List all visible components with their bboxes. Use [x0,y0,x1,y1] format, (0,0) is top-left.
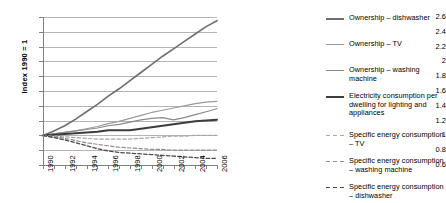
legend-swatch-icon [326,183,344,193]
legend-swatch-icon [326,66,344,76]
legend-item-label: Specific energy consumption – washing ma… [349,157,446,174]
y-axis-tick-label: 2.2 [410,43,446,51]
series-line-4 [43,135,217,139]
legend-item-label: Specific energy consumption – TV [349,131,446,148]
x-axis-tick-label: 1990 [46,155,55,172]
legend-item-label: Ownership – dishwasher [349,14,430,23]
x-axis-tick-mark [108,166,109,169]
x-axis-tick-mark [217,166,218,169]
legend-item-label: Ownership – TV [349,40,402,49]
y-axis-title: Index 1990 = 1 [20,19,29,115]
legend-item-label: Specific energy consumption – dishwasher [349,183,446,200]
legend-item[interactable]: Electricity consumption per dwelling for… [326,92,446,118]
x-axis-tick-mark [87,166,88,169]
chart-container: Index 1990 = 1 2.62.42.221.81.61.41.210.… [0,0,446,203]
x-axis-tick-label: 2000 [155,155,164,172]
x-axis-tick-mark [174,166,175,169]
x-axis-tick-label: 2004 [198,155,207,172]
x-axis-tick-mark [65,166,66,169]
x-axis-tick-label: 1998 [133,155,142,172]
legend-item[interactable]: Specific energy consumption – washing ma… [326,157,446,174]
series-lines [43,17,217,165]
legend-item-label: Ownership – washing machine [349,66,446,83]
legend-item[interactable]: Ownership – dishwasher [326,14,430,24]
x-axis-tick-label: 2002 [177,155,186,172]
legend-swatch-icon [326,157,344,167]
legend-swatch-icon [326,92,344,102]
legend-swatch-icon [326,40,344,50]
legend-swatch-icon [326,14,344,24]
legend-item-label: Electricity consumption per dwelling for… [349,92,446,118]
legend-item[interactable]: Ownership – TV [326,40,402,50]
x-axis-tick-mark [130,166,131,169]
y-axis-tick-label: 2.4 [410,28,446,36]
x-axis-tick-mark [195,166,196,169]
legend-item[interactable]: Ownership – washing machine [326,66,446,83]
x-axis-tick-mark [43,166,44,169]
legend-item[interactable]: Specific energy consumption – TV [326,131,446,148]
legend-swatch-icon [326,131,344,141]
y-axis-tick-label: 1.2 [410,117,446,125]
y-axis-line [43,17,44,166]
plot-area [43,17,217,165]
x-axis-tick-label: 2006 [220,155,229,172]
x-axis-tick-label: 1992 [68,155,77,172]
x-axis-tick-label: 1994 [90,155,99,172]
x-axis-tick-label: 1996 [111,155,120,172]
legend-item[interactable]: Specific energy consumption – dishwasher [326,183,446,200]
x-axis-tick-mark [152,166,153,169]
